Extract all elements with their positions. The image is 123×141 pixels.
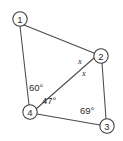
vertex-2: 2 — [94, 49, 108, 63]
vertex-3: 3 — [100, 119, 114, 133]
geometry-canvas: 60° 47° 69° x x 1 2 3 4 — [0, 0, 123, 141]
edge-1-to-4 — [20, 26, 29, 105]
vertex-1: 1 — [13, 12, 27, 26]
vertex-1-label: 1 — [17, 14, 22, 25]
edge-4-to-3 — [37, 114, 100, 125]
vertex-group: 1 2 3 4 — [13, 12, 114, 133]
vertex-4: 4 — [23, 105, 37, 119]
edge-1-to-2 — [24, 25, 94, 53]
angle-label-60: 60° — [29, 82, 44, 93]
angle-label-47: 47° — [42, 95, 57, 106]
geometry-diagram: 60° 47° 69° x x 1 2 3 4 — [0, 0, 123, 141]
vertex-4-label: 4 — [27, 107, 32, 118]
variable-label-x-upper: x — [77, 56, 82, 66]
edge-2-to-3 — [102, 63, 106, 119]
variable-label-group: x x — [77, 56, 86, 78]
angle-label-69: 69° — [80, 105, 95, 116]
vertex-3-label: 3 — [104, 121, 109, 132]
vertex-2-label: 2 — [98, 51, 103, 62]
variable-label-x-lower: x — [81, 68, 86, 78]
